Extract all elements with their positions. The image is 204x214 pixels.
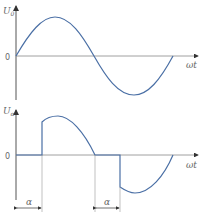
phase-control-diagram: U0 0 ωt Uα 0 ωt α α	[0, 0, 204, 214]
bottom-x-label: ωt	[186, 160, 197, 170]
top-x-label: ωt	[186, 60, 197, 70]
bottom-y-label: Uα	[3, 106, 15, 117]
top-y-label: U0	[3, 6, 15, 17]
bottom-plot: Uα 0 ωt α α	[3, 106, 198, 212]
alpha-label-1: α	[26, 197, 32, 207]
alpha-label-2: α	[104, 197, 110, 207]
bottom-zero-label: 0	[5, 152, 10, 161]
top-plot: U0 0 ωt	[3, 6, 198, 100]
top-zero-label: 0	[5, 53, 10, 62]
bottom-controlled-curve	[16, 116, 173, 193]
